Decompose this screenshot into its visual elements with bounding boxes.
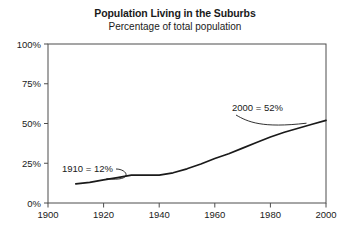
x-axis-ticks	[48, 203, 326, 208]
y-tick-label: 25%	[22, 158, 42, 169]
y-axis-ticks	[44, 44, 48, 203]
x-tick-label: 1960	[204, 209, 225, 220]
chart-figure: Population Living in the Suburbs Percent…	[0, 0, 350, 237]
annotation-label-1910: 1910 = 12%	[62, 163, 114, 174]
x-axis-tick-labels: 1900 1920 1940 1960 1980 2000	[37, 209, 336, 220]
y-tick-label: 50%	[22, 118, 42, 129]
plot-frame	[48, 44, 326, 203]
y-axis-tick-labels: 100% 75% 50% 25% 0%	[17, 39, 42, 209]
annotation-leader-line	[236, 115, 307, 125]
y-tick-label: 75%	[22, 78, 42, 89]
plot-area: 100% 75% 50% 25% 0% 1900 1920 1940 1960 …	[0, 0, 350, 237]
x-tick-label: 2000	[315, 209, 336, 220]
annotation-label-2000: 2000 = 52%	[232, 102, 284, 113]
x-tick-label: 1920	[93, 209, 114, 220]
y-tick-label: 0%	[27, 198, 41, 209]
x-tick-label: 1980	[260, 209, 281, 220]
x-tick-label: 1940	[149, 209, 170, 220]
x-tick-label: 1900	[37, 209, 58, 220]
y-tick-label: 100%	[17, 39, 42, 50]
data-line-suburban-population	[76, 120, 326, 184]
